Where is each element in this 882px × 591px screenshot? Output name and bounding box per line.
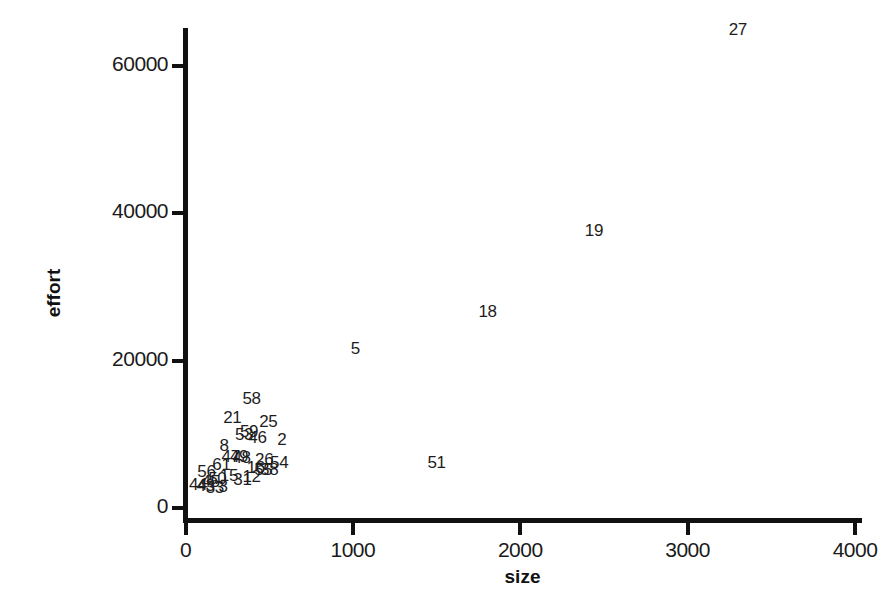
y-axis-spine <box>183 28 188 522</box>
data-point-label: 27 <box>729 21 747 38</box>
data-point-label: 12 <box>242 467 260 484</box>
data-point-label: 58 <box>242 389 260 406</box>
x-axis-tick-mark <box>518 523 522 535</box>
data-point-label: 59 <box>240 422 258 439</box>
data-point-label: 45 <box>201 473 219 490</box>
data-point-label: 3 <box>219 477 228 494</box>
y-axis-tick-label: 20000 <box>68 347 168 371</box>
y-axis-tick-mark <box>172 64 183 68</box>
y-axis-tick-label: 0 <box>68 494 168 518</box>
data-point-label: 56 <box>197 463 215 480</box>
data-point-label: 33 <box>206 479 224 496</box>
data-point-label: 51 <box>427 453 445 470</box>
x-axis-tick-mark <box>184 523 188 535</box>
data-point-label: 54 <box>270 454 288 471</box>
data-point-label: 48 <box>232 449 250 466</box>
data-point-label: 21 <box>223 408 241 425</box>
y-axis-title: effort <box>43 233 65 353</box>
data-point-label: 43 <box>196 477 214 494</box>
x-axis-title: size <box>183 566 862 588</box>
data-point-label: 25 <box>259 413 277 430</box>
data-point-label: 15 <box>220 466 238 483</box>
data-point-label: 26 <box>255 450 273 467</box>
x-axis-tick-mark <box>686 523 690 535</box>
data-point-label: 16 <box>247 459 265 476</box>
data-point-label: 50 <box>208 469 226 486</box>
y-axis-tick-label: 60000 <box>68 52 168 76</box>
data-point-label: 31 <box>233 471 251 488</box>
data-point-label: 55 <box>254 460 272 477</box>
data-point-label: 18 <box>478 302 496 319</box>
x-axis-tick-label: 4000 <box>795 538 882 562</box>
x-axis-tick-label: 1000 <box>293 538 413 562</box>
data-point-label: 47 <box>222 447 240 464</box>
data-point-label: 46 <box>248 428 266 445</box>
x-axis-tick-label: 2000 <box>460 538 580 562</box>
x-axis-tick-mark <box>853 523 857 535</box>
y-axis-tick-mark <box>172 506 183 510</box>
data-point-label: 38 <box>260 460 278 477</box>
x-axis-tick-label: 0 <box>126 538 246 562</box>
data-point-label: 8 <box>219 436 228 453</box>
data-point-label: 44 <box>189 476 207 493</box>
x-axis-tick-label: 3000 <box>628 538 748 562</box>
data-point-label: 53 <box>235 425 253 442</box>
y-axis-tick-mark <box>172 359 183 363</box>
data-point-label: 49 <box>230 447 248 464</box>
x-axis-spine <box>183 518 862 523</box>
y-axis-tick-mark <box>172 211 183 215</box>
data-point-label: 61 <box>212 455 230 472</box>
y-axis-tick-label: 40000 <box>68 199 168 223</box>
data-point-label: 19 <box>585 221 603 238</box>
x-axis-tick-mark <box>351 523 355 535</box>
data-point-label: 5 <box>351 340 360 357</box>
data-point-label: 2 <box>277 431 286 448</box>
